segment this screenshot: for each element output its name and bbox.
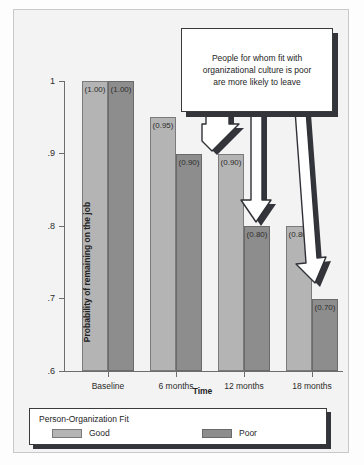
y-tick-06 bbox=[59, 371, 65, 372]
y-tick-1 bbox=[59, 81, 65, 82]
bar-label-baseline-poor: (1.00) bbox=[111, 85, 132, 94]
y-tick-label-08: .8 bbox=[47, 221, 55, 231]
legend-box: Person-Organization Fit Good Poor bbox=[29, 408, 327, 445]
bar-label-12-months-good: (0.90) bbox=[221, 158, 242, 167]
callout-line-3: are more likely to leave bbox=[213, 77, 300, 87]
x-tick-18-months bbox=[312, 371, 313, 377]
legend-title: Person-Organization Fit bbox=[39, 414, 129, 424]
bar-12-months-poor[interactable]: (0.80) bbox=[244, 226, 270, 371]
bar-label-18-months-poor: (0.70) bbox=[315, 303, 336, 312]
y-tick-09 bbox=[59, 153, 65, 154]
bar-label-6-months-good: (0.95) bbox=[153, 121, 174, 130]
y-tick-label-09: .9 bbox=[47, 148, 55, 158]
x-axis-title: Time bbox=[64, 386, 341, 396]
callout-text: People for whom fit with organizational … bbox=[196, 52, 319, 89]
y-tick-08 bbox=[59, 226, 65, 227]
y-tick-label-1: 1 bbox=[50, 76, 55, 86]
plot-area: 1 .9 .8 .7 .6 Baseline 6 months 12 month… bbox=[64, 81, 341, 371]
bar-label-6-months-poor: (0.90) bbox=[179, 158, 200, 167]
y-axis-title: Probability of remaining on the job bbox=[82, 187, 92, 357]
bar-12-months-good[interactable]: (0.90) bbox=[218, 154, 244, 371]
x-axis-line bbox=[64, 371, 343, 372]
legend-swatch-poor-icon bbox=[202, 429, 232, 438]
callout-line-1: People for whom fit with bbox=[212, 53, 302, 63]
bar-label-baseline-good: (1.00) bbox=[85, 85, 106, 94]
callout-box: People for whom fit with organizational … bbox=[181, 28, 333, 112]
y-tick-label-06: .6 bbox=[47, 366, 55, 376]
x-tick-12-months bbox=[244, 371, 245, 377]
legend-label-poor: Poor bbox=[239, 428, 257, 438]
legend-swatch-good-icon bbox=[52, 429, 82, 438]
bar-6-months-poor[interactable]: (0.90) bbox=[176, 154, 202, 371]
y-tick-label-07: .7 bbox=[47, 293, 55, 303]
y-tick-07 bbox=[59, 298, 65, 299]
legend-entry-good[interactable]: Good bbox=[52, 428, 110, 438]
bar-18-months-poor[interactable]: (0.70) bbox=[312, 299, 338, 371]
x-tick-baseline bbox=[108, 371, 109, 377]
x-tick-6-months bbox=[176, 371, 177, 377]
bar-baseline-poor[interactable]: (1.00) bbox=[108, 81, 134, 371]
bar-label-18-months-good: (0.80) bbox=[289, 230, 310, 239]
legend-label-good: Good bbox=[89, 428, 110, 438]
bar-18-months-good[interactable]: (0.80) bbox=[286, 226, 312, 371]
bar-label-12-months-poor: (0.80) bbox=[247, 230, 268, 239]
callout-line-2: organizational culture is poor bbox=[203, 65, 312, 75]
bar-6-months-good[interactable]: (0.95) bbox=[150, 117, 176, 371]
figure-canvas: 1 .9 .8 .7 .6 Baseline 6 months 12 month… bbox=[0, 0, 364, 465]
legend-entry-poor[interactable]: Poor bbox=[202, 428, 257, 438]
